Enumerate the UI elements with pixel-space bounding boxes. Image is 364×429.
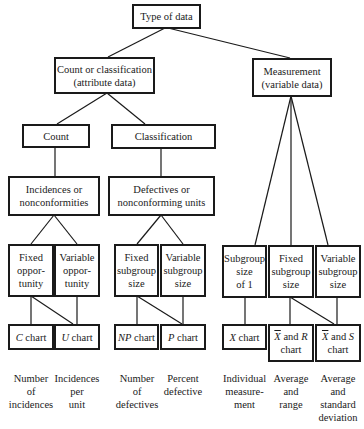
node-label: Count or classification [57,63,152,76]
caption-xbar-s-chart: Average and standard deviation [311,372,364,424]
node-label: Incidences or [26,183,82,196]
node-label: Subgroup [224,252,265,265]
caption-line: per [50,385,104,398]
chart-label: chart [174,332,198,343]
c-chart-node: C chart [8,324,54,350]
caption-line: unit [50,398,104,411]
node-sublabel: nonconforming units [118,196,206,209]
chart-symbol: C [16,332,23,343]
caption-line: and [265,385,317,398]
subgroup-size-one-node: Subgroup size of 1 [222,245,267,298]
node-label: size [236,265,252,278]
caption-line: deviation [311,411,364,424]
caption-line: Individual [217,372,272,385]
caption-u-chart: Incidences per unit [50,372,104,411]
caption-line: defective [156,385,210,398]
chart-label: chart [328,343,349,356]
caption-x-chart: Individual measure- ment [217,372,272,411]
node-label: size [175,277,191,290]
chart-symbol: U [61,332,69,343]
variable-subgroup-attribute-node: Variable subgroup size [160,244,206,297]
chart-label: and [328,331,348,342]
node-label: of 1 [236,278,253,291]
node-label: size [128,277,144,290]
x-chart-node: X chart [222,324,267,350]
caption-line: and [311,385,364,398]
variable-subgroup-variable-node: Variable subgroup size [315,245,361,298]
defectives-node: Defectives or nonconforming units [108,176,215,216]
node-label: Count [43,130,69,143]
node-sublabel: (attribute data) [73,76,135,89]
node-label: oppor- [17,264,45,277]
node-label: subgroup [163,264,202,277]
node-label: size [283,278,299,291]
caption-line: Percent [156,372,210,385]
node-label: Type of data [140,10,192,23]
node-label: Fixed [279,252,303,265]
caption-line: Incidences [50,372,104,385]
chart-symbol: R [301,331,307,342]
caption-line: standard [311,398,364,411]
chart-label: chart [131,332,155,343]
p-chart-node: P chart [160,324,206,350]
xbar-r-chart-node: X and R chart [268,324,314,362]
chart-label: chart [281,343,302,356]
node-label: size [330,278,346,291]
node-label: Defectives or [133,183,189,196]
node-label: Variable [60,251,95,264]
np-chart-node: NP chart [114,324,159,350]
node-label: oppor- [63,264,91,277]
chart-symbol: NP [118,332,131,343]
variable-opportunity-node: Variable oppor- tunity [54,244,100,297]
caption-line: range [265,398,317,411]
caption-xbar-r-chart: Average and range [265,372,317,411]
attribute-data-node: Count or classification (attribute data) [54,57,155,94]
node-label: Classification [135,130,193,143]
node-label: subgroup [318,265,357,278]
u-chart-node: U chart [54,324,100,350]
node-sublabel: (variable data) [262,78,323,91]
caption-line: Average [265,372,317,385]
node-label: subgroup [271,265,310,278]
caption-p-chart: Percent defective [156,372,210,398]
variable-data-node: Measurement (variable data) [252,58,332,97]
node-label: Fixed [125,251,149,264]
caption-line: Average [311,372,364,385]
fixed-opportunity-node: Fixed oppor- tunity [8,244,54,297]
chart-label: chart [236,332,260,343]
fixed-subgroup-attribute-node: Fixed subgroup size [114,244,159,297]
type-of-data-node: Type of data [132,4,201,29]
node-label: Fixed [19,251,43,264]
xbar-s-chart-node: X and S chart [315,324,361,362]
chart-label: chart [69,332,93,343]
incidences-node: Incidences or nonconformities [8,176,100,216]
caption-line: defectives [110,398,164,411]
caption-line: measure- [217,385,272,398]
node-sublabel: nonconformities [20,196,89,209]
classification-node: Classification [111,124,216,149]
chart-label: and [281,331,301,342]
node-label: tunity [65,277,90,290]
count-node: Count [22,124,90,148]
node-label: Measurement [263,65,320,78]
chart-symbol: S [349,331,354,342]
node-label: tunity [19,277,44,290]
node-label: Variable [321,252,356,265]
node-label: Variable [166,251,201,264]
chart-label: chart [23,332,47,343]
node-label: subgroup [117,264,156,277]
caption-line: ment [217,398,272,411]
fixed-subgroup-variable-node: Fixed subgroup size [268,245,314,298]
